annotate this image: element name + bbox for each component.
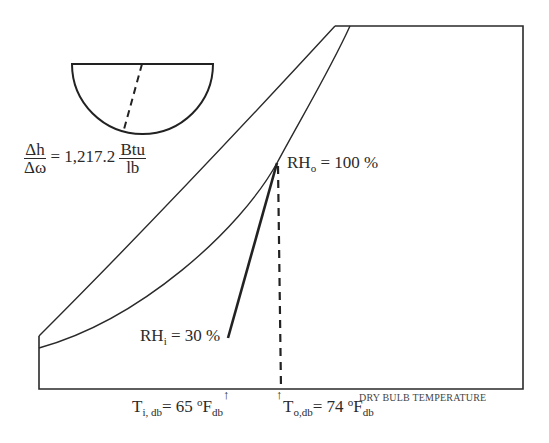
outlet-temp-degree: o [348,396,354,408]
inlet-rh-value: = 30 % [171,326,220,345]
protractor-slope-label: Δh Δω = 1,217.2 Btu lb [24,141,146,176]
slope-unit-fraction: Btu lb [119,141,146,176]
outlet-rh-subscript: o [311,162,317,174]
outlet-temp-arrow-icon: ↑ [276,388,283,401]
inlet-temp-subscript: i, db [142,406,162,418]
slope-numerator: Δh [24,141,46,159]
outlet-temp-label: To,db= 74 oFdb [283,397,374,417]
outlet-temp-subscript: o,db [293,406,312,418]
x-axis-title: DRY BULB TEMPERATURE [359,392,486,403]
outlet-rh-symbol: RH [287,153,311,172]
protractor-slope-dashed-line [123,64,142,133]
inlet-temp-symbol: T [132,397,142,416]
inlet-rh-subscript: i [164,335,167,347]
outlet-rh-value: = 100 % [320,153,378,172]
outlet-temp-value: = 74 [313,397,348,416]
outlet-temp-symbol: T [283,397,293,416]
inlet-temp-unit-subscript: db [212,406,223,418]
slope-denominator: Δω [24,159,46,176]
inlet-rh-label: RHi = 30 % [140,326,220,346]
slope-fraction: Δh Δω [24,141,46,176]
outer-boundary-line [39,26,335,336]
outlet-dashed-line [278,166,281,389]
protractor-icon [72,64,213,134]
outlet-temp-unit: F [353,397,362,416]
slope-unit-numerator: Btu [119,141,146,159]
slope-unit-denominator: lb [119,159,146,176]
inlet-rh-symbol: RH [140,326,164,345]
process-line [228,163,277,338]
outlet-rh-label: RHo = 100 % [287,153,378,173]
inlet-temp-label: Ti, db= 65 oFdb [132,397,223,417]
outlet-temp-unit-subscript: db [363,406,374,418]
saturation-curve [39,26,350,348]
slope-value: = 1,217.2 [50,147,115,166]
inlet-temp-arrow-icon: ↑ [223,388,230,401]
psychrometric-chart [0,0,549,443]
inlet-temp-degree: o [197,396,203,408]
inlet-temp-unit: F [203,397,212,416]
inlet-temp-value: = 65 [162,397,197,416]
